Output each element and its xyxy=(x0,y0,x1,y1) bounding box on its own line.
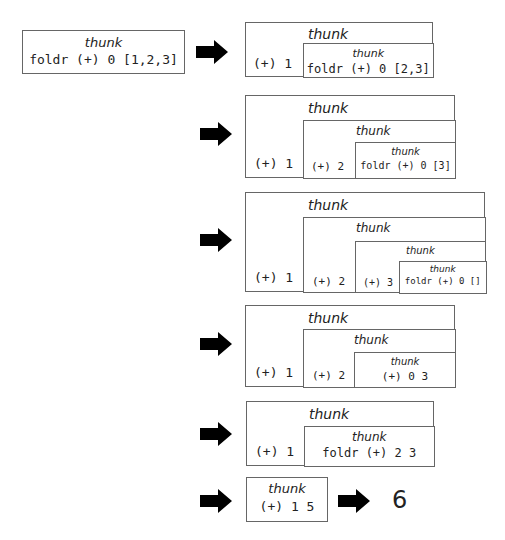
thunk-label: thunk xyxy=(308,100,348,116)
mid-op: (+) 2 xyxy=(312,369,345,382)
thunk-label: thunk xyxy=(356,146,455,157)
right-arrow-icon xyxy=(200,122,232,146)
thunk-label: thunk xyxy=(308,197,348,213)
mid-op: (+) 2 xyxy=(312,275,345,288)
thunk-label: thunk xyxy=(305,430,434,444)
thunk-label: thunk xyxy=(309,406,349,422)
thunk-box-step6: thunk (+) 1 5 xyxy=(246,477,328,522)
mid2-thunk-box: thunk (+) 3 thunk foldr (+) 0 [] xyxy=(355,241,486,293)
outer-op: (+) 1 xyxy=(254,270,293,285)
inner-thunk-box: thunk foldr (+) 0 [] xyxy=(399,261,487,294)
thunk-box-step0: thunk foldr (+) 0 [1,2,3] xyxy=(22,30,185,74)
right-arrow-icon xyxy=(338,489,370,513)
outer-op: (+) 1 xyxy=(254,156,293,171)
thunk-label: thunk xyxy=(355,356,455,367)
thunk-label: thunk xyxy=(354,333,388,347)
thunk-expr: foldr (+) 0 [3] xyxy=(356,160,455,171)
inner-thunk-box: thunk foldr (+) 0 [2,3] xyxy=(303,43,434,78)
right-arrow-icon xyxy=(200,489,232,513)
outer-op: (+) 1 xyxy=(253,56,292,71)
inner-thunk-box: thunk foldr (+) 0 [3] xyxy=(355,142,456,179)
thunk-box-step4: thunk (+) 1 thunk (+) 2 thunk (+) 0 3 xyxy=(245,305,455,387)
thunk-label: thunk xyxy=(23,35,184,50)
right-arrow-icon xyxy=(200,422,232,446)
mid2-op: (+) 3 xyxy=(363,277,393,288)
thunk-box-step3: thunk (+) 1 thunk (+) 2 thunk (+) 3 thun… xyxy=(245,192,485,292)
mid-thunk-box: thunk (+) 2 thunk (+) 3 thunk foldr (+) … xyxy=(303,217,486,293)
thunk-label: thunk xyxy=(247,481,327,496)
thunk-expr: foldr (+) 2 3 xyxy=(305,446,434,460)
mid-thunk-box: thunk (+) 2 thunk foldr (+) 0 [3] xyxy=(303,120,456,179)
mid-op: (+) 2 xyxy=(311,160,344,173)
final-result: 6 xyxy=(392,486,407,514)
thunk-label: thunk xyxy=(308,26,348,42)
right-arrow-icon xyxy=(196,40,228,64)
right-arrow-icon xyxy=(200,228,232,252)
thunk-label: thunk xyxy=(406,245,435,256)
thunk-label: thunk xyxy=(356,221,390,235)
thunk-label: thunk xyxy=(308,310,348,326)
thunk-expr: foldr (+) 0 [] xyxy=(400,276,486,286)
mid-thunk-box: thunk (+) 2 thunk (+) 0 3 xyxy=(303,329,456,388)
thunk-expr: (+) 1 5 xyxy=(247,499,327,514)
inner-thunk-box: thunk foldr (+) 2 3 xyxy=(304,426,435,467)
thunk-label: thunk xyxy=(400,264,486,274)
thunk-expr: (+) 0 3 xyxy=(355,370,455,383)
outer-op: (+) 1 xyxy=(255,444,294,459)
thunk-label: thunk xyxy=(356,124,390,138)
thunk-box-step1: thunk (+) 1 thunk foldr (+) 0 [2,3] xyxy=(245,22,433,77)
thunk-expr: foldr (+) 0 [2,3] xyxy=(304,62,433,76)
thunk-label: thunk xyxy=(304,47,433,60)
outer-op: (+) 1 xyxy=(254,365,293,380)
thunk-box-step5: thunk (+) 1 thunk foldr (+) 2 3 xyxy=(246,401,434,466)
right-arrow-icon xyxy=(200,332,232,356)
inner-thunk-box: thunk (+) 0 3 xyxy=(354,352,456,388)
thunk-box-step2: thunk (+) 1 thunk (+) 2 thunk foldr (+) … xyxy=(245,95,455,178)
thunk-expr: foldr (+) 0 [1,2,3] xyxy=(23,52,184,67)
